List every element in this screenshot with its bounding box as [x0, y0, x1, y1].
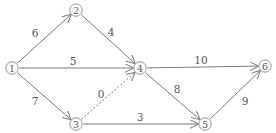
node-label: 2 [73, 5, 79, 16]
edge-weight-label: 3 [137, 111, 144, 123]
node-label: 1 [9, 63, 15, 74]
edge-1-to-2 [17, 15, 70, 63]
node-label: 4 [137, 63, 143, 74]
node-label: 3 [73, 119, 79, 130]
edge-weight-label: 9 [242, 95, 249, 107]
node-2: 2 [70, 4, 82, 16]
network-diagram: 6574031089 123456 [0, 0, 276, 133]
edge-weight-label: 5 [70, 55, 77, 67]
node-label: 5 [202, 119, 208, 130]
edge-weight-label: 6 [32, 27, 39, 39]
node-label: 6 [262, 61, 268, 72]
node-3: 3 [70, 118, 82, 130]
edge-weight-label: 4 [108, 26, 115, 38]
node-5: 5 [199, 118, 211, 130]
edge-weight-label: 8 [174, 83, 181, 95]
edge-4-to-5 [145, 73, 199, 120]
node-4: 4 [134, 62, 146, 74]
edge-1-to-3 [17, 73, 70, 120]
edge-4-to-6 [147, 66, 258, 68]
edge-3-to-4 [81, 73, 134, 120]
edge-weight-label: 10 [194, 54, 207, 66]
node-1: 1 [6, 62, 18, 74]
edge-weight-label: 7 [32, 95, 39, 107]
edge-5-to-6 [210, 71, 260, 119]
node-6: 6 [259, 60, 271, 72]
edge-2-to-4 [81, 15, 134, 63]
edge-weight-label: 0 [98, 88, 105, 100]
